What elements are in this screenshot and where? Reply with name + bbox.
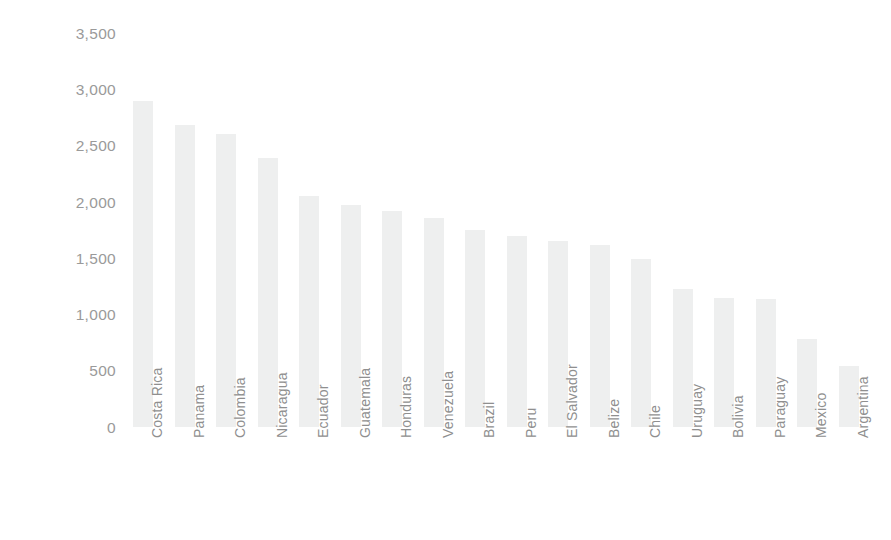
x-tick-label: Venezuela xyxy=(440,370,456,437)
y-tick-label: 3,500 xyxy=(44,25,116,43)
y-tick-label: 500 xyxy=(44,362,116,380)
x-tick-label: Nicaragua xyxy=(274,372,290,438)
x-tick-label: Ecuador xyxy=(315,384,331,438)
y-tick-label: 3,000 xyxy=(44,81,116,99)
x-tick-label: Mexico xyxy=(813,392,829,438)
x-tick-label: Guatemala xyxy=(357,367,373,437)
y-tick-label: 2,000 xyxy=(44,194,116,212)
x-tick-label: Argentina xyxy=(855,376,871,438)
x-tick-label: Panama xyxy=(191,384,207,437)
x-tick-label: Brazil xyxy=(481,401,497,437)
bar xyxy=(175,125,195,427)
x-tick-label: Belize xyxy=(606,398,622,437)
x-tick-label: Honduras xyxy=(398,375,414,437)
y-axis-ticks: 3,5003,0002,5002,0001,5001,0005000 xyxy=(40,0,116,540)
x-tick-label: Uruguay xyxy=(689,383,705,437)
x-tick-label: El Salvador xyxy=(564,364,580,438)
y-axis-title-text: Rainfall (mm/yr) xyxy=(12,0,40,28)
bar-chart: Rainfall (mm/yr) 3,5003,0002,5002,0001,5… xyxy=(0,0,891,540)
y-tick-label: 0 xyxy=(44,419,116,437)
y-tick-label: 2,500 xyxy=(44,137,116,155)
bar xyxy=(507,236,527,427)
y-tick-label: 1,500 xyxy=(44,250,116,268)
x-tick-label: Colombia xyxy=(232,377,248,438)
x-tick-label: Bolivia xyxy=(730,395,746,438)
y-tick-label: 1,000 xyxy=(44,306,116,324)
y-axis-title: Rainfall (mm/yr) xyxy=(12,0,40,28)
x-tick-label: Chile xyxy=(647,405,663,438)
x-tick-label: Peru xyxy=(523,407,539,437)
x-tick-label: Paraguay xyxy=(772,376,788,438)
x-tick-label: Costa Rica xyxy=(149,367,165,437)
bar xyxy=(631,259,651,428)
bar xyxy=(465,230,485,428)
plot-area: Costa RicaPanamaColombiaNicaraguaEcuador… xyxy=(124,0,876,540)
